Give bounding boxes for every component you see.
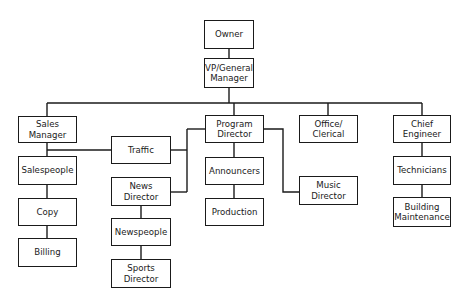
node-office-clerical: Office/ Clerical [299,115,358,143]
node-program-director: Program Director [205,115,264,143]
node-production: Production [205,198,264,226]
node-announcers: Announcers [205,157,264,185]
node-sales-manager: Sales Manager [18,116,77,143]
node-newspeople: Newspeople [111,218,171,246]
node-billing: Billing [18,238,77,267]
node-owner: Owner [204,20,254,49]
edge-program-director-music-director [264,129,299,192]
node-salespeople: Salespeople [18,156,77,185]
node-chief-engineer: Chief Engineer [393,115,451,143]
node-news-director: News Director [111,177,171,206]
node-vp-general-manager: VP/General Manager [204,58,254,88]
node-building-maintenance: Building Maintenance [393,197,451,227]
node-music-director: Music Director [299,176,358,205]
node-copy: Copy [18,198,77,226]
node-technicians: Technicians [393,156,451,185]
node-traffic: Traffic [111,136,171,164]
node-sports-director: Sports Director [111,259,171,288]
